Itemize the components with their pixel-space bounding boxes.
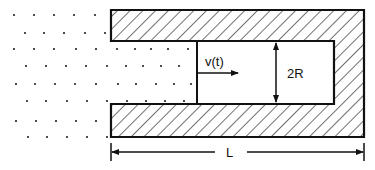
particle-dot [173,83,175,85]
particle-dot [66,100,68,102]
particle-dot [150,48,152,50]
particle-dot [27,136,29,138]
particle-dot [142,65,144,67]
particle-dot [45,65,47,67]
particle-dot [104,32,106,34]
particle-dot [24,32,26,34]
particle-dot [13,48,15,50]
particle-dot [86,100,88,102]
particle-dot [135,83,137,85]
particle-dot [33,48,35,50]
particle-dot [15,120,17,122]
particle-dot [15,83,17,85]
particle-dot [63,32,65,34]
particle-dot [117,83,119,85]
particle-dot [187,48,189,50]
particle-dot [164,100,166,102]
particle-dot [74,83,76,85]
particle-dot [116,48,118,50]
particle-dot [190,83,192,85]
particle-dot [34,83,36,85]
particle-dot [86,136,88,138]
particle-dot [145,100,147,102]
diameter-label: 2R [287,66,304,81]
particle-dot [75,48,77,50]
particle-dot [66,136,68,138]
particle-dot [46,136,48,138]
particle-dot [183,100,185,102]
particle-dot [35,120,37,122]
particle-dot [55,120,57,122]
particle-dot [95,83,97,85]
particle-dot [160,65,162,67]
particle-dot [43,32,45,34]
particle-dot [85,65,87,67]
particle-dot [106,100,108,102]
particle-dot [134,48,136,50]
particle-dot [106,136,108,138]
velocity-label: v(t) [205,54,224,69]
particle-dot [65,65,67,67]
particle-dot [26,100,28,102]
particle-dot [53,48,55,50]
particle-dot [45,100,47,102]
particle-dot [84,32,86,34]
particle-dot [94,14,96,16]
tube-diagram: v(t) 2R L [0,0,375,170]
particle-dot [33,14,35,16]
particle-dot [25,65,27,67]
particle-dot [167,48,169,50]
particle-dot [53,14,55,16]
length-label: L [226,145,233,160]
particle-dot [106,65,108,67]
particle-dot [54,83,56,85]
particle-dot [13,14,15,16]
particle-dot [95,48,97,50]
particle-dot [126,100,128,102]
particle-dot [95,120,97,122]
particle-dot [178,65,180,67]
particle-dot [125,65,127,67]
particle-dot [155,83,157,85]
particle-dot [75,120,77,122]
particle-dot [73,14,75,16]
